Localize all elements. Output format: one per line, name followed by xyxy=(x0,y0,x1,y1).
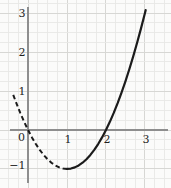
y-tick-label--1: −1 xyxy=(9,159,25,172)
x-tick-label-2: 2 xyxy=(103,133,110,146)
parabola-chart: 123321−10 xyxy=(0,0,171,188)
x-tick-label-3: 3 xyxy=(142,133,149,146)
y-tick-label-1: 1 xyxy=(19,85,26,98)
origin-label: 0 xyxy=(18,131,25,144)
y-tick-label-3: 3 xyxy=(19,7,26,20)
function-graph: 123321−10 xyxy=(0,0,171,188)
y-tick-label-2: 2 xyxy=(19,46,26,59)
x-tick-label-1: 1 xyxy=(65,133,72,146)
